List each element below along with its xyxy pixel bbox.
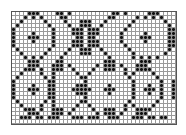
grid-cell	[172, 120, 176, 124]
knitting-chart-grid	[11, 11, 177, 125]
